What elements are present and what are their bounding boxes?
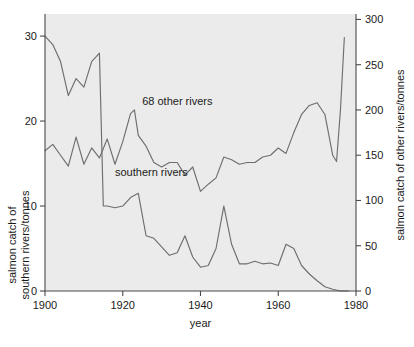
y-right-tick-label: 50 bbox=[365, 240, 377, 252]
y-axis-left-title-line1: salmon catch of bbox=[6, 206, 18, 284]
y-right-tick-label: 300 bbox=[365, 13, 383, 25]
salmon-catch-line-chart: 1900192019401960198001020300501001502002… bbox=[0, 0, 414, 347]
y-right-tick-label: 0 bbox=[365, 285, 371, 297]
y-axis-right-title: salmon catch of other rivers/tonnes bbox=[394, 69, 406, 241]
y-left-tick-label: 20 bbox=[25, 115, 37, 127]
x-tick-label: 1900 bbox=[33, 299, 57, 311]
y-right-tick-label: 200 bbox=[365, 104, 383, 116]
plot-background bbox=[45, 14, 356, 291]
annotation-label-other-rivers: 68 other rivers bbox=[142, 95, 213, 107]
x-tick-label: 1980 bbox=[344, 299, 368, 311]
x-tick-label: 1920 bbox=[111, 299, 135, 311]
x-tick-label: 1940 bbox=[188, 299, 212, 311]
annotation-label-southern-rivers: southern rivers bbox=[115, 166, 188, 178]
x-tick-label: 1960 bbox=[266, 299, 290, 311]
x-axis-title: year bbox=[190, 317, 212, 329]
y-right-tick-label: 250 bbox=[365, 59, 383, 71]
y-left-tick-label: 0 bbox=[31, 285, 37, 297]
y-right-tick-label: 100 bbox=[365, 194, 383, 206]
y-left-tick-label: 30 bbox=[25, 30, 37, 42]
chart-container: 1900192019401960198001020300501001502002… bbox=[0, 0, 414, 347]
y-right-tick-label: 150 bbox=[365, 149, 383, 161]
y-axis-left-title-line2: southern rivers/tonnes bbox=[19, 190, 31, 299]
